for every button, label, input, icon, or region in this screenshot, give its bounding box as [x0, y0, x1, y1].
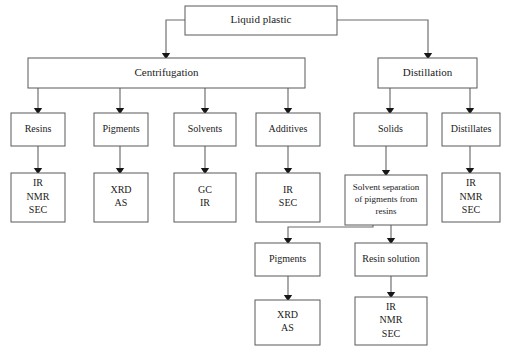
node-centrifugation[interactable]: Centrifugation [28, 58, 305, 88]
node-additives-methods[interactable]: IRSEC [256, 173, 320, 222]
liquid-plastic-to-distillation [337, 20, 432, 59]
pigments-secondary-to-methods [284, 276, 292, 301]
flowchart-canvas: Liquid plasticCentrifugationDistillation… [0, 0, 511, 350]
node-resins-methods-label: NMR [27, 191, 50, 202]
node-distillates[interactable]: Distillates [442, 113, 500, 146]
resin-solution-to-methods [387, 276, 395, 298]
node-solvents-label: Solvents [188, 123, 223, 134]
node-solvents[interactable]: Solvents [174, 113, 236, 146]
node-additives-label: Additives [269, 123, 308, 134]
node-pigments-secondary[interactable]: Pigments [255, 243, 320, 276]
node-liquid-plastic[interactable]: Liquid plastic [185, 6, 337, 35]
solvent-separation-to-resin-solution [387, 225, 395, 244]
solvents-to-methods [201, 146, 209, 174]
liquid-plastic-to-centrifugation [162, 20, 185, 59]
solvent-separation-to-pigments-line [288, 225, 373, 238]
node-distillates-methods-label: NMR [460, 191, 483, 202]
node-pigments-methods-label: XRD [110, 184, 131, 195]
node-additives[interactable]: Additives [256, 113, 320, 146]
distillation-to-distillates [466, 88, 474, 114]
solids-to-solvent-separation [382, 146, 390, 176]
node-pigments-centrifuge[interactable]: Pigments [94, 113, 148, 146]
resins-to-methods [34, 146, 42, 174]
node-additives-methods-label: SEC [279, 197, 298, 208]
node-additives-methods-label: IR [283, 184, 293, 195]
solvent-separation-to-pigments [284, 225, 373, 244]
node-resin-solution-methods-label: NMR [380, 314, 403, 325]
distillation-to-solids [386, 88, 394, 114]
additives-to-methods [284, 146, 292, 174]
node-resin-solution-methods-label: IR [386, 301, 396, 312]
node-pigments-secondary-methods-label: AS [281, 322, 294, 333]
node-liquid-plastic-label: Liquid plastic [231, 13, 292, 25]
node-distillates-label: Distillates [451, 123, 492, 134]
node-resins-label: Resins [25, 123, 52, 134]
node-resins-methods[interactable]: IRNMRSEC [11, 173, 65, 222]
node-pigments-methods[interactable]: XRDAS [94, 173, 148, 222]
node-solvent-separation-label: Solvent separation [353, 182, 420, 192]
node-distillation[interactable]: Distillation [378, 58, 477, 88]
centrifugation-to-resins [34, 88, 42, 114]
liquid-plastic-to-distillation-line [337, 20, 428, 53]
node-distillation-label: Distillation [403, 66, 453, 78]
pigments-to-methods [116, 146, 124, 174]
node-solvents-methods-label: IR [200, 197, 210, 208]
distillates-to-methods [466, 146, 474, 174]
node-solvents-methods-label: GC [198, 184, 212, 195]
node-distillates-methods-label: IR [466, 177, 476, 188]
node-solvents-methods[interactable]: GCIR [174, 173, 236, 222]
node-solids-label: Solids [378, 123, 403, 134]
node-pigments-secondary-methods[interactable]: XRDAS [255, 300, 320, 345]
node-distillates-methods[interactable]: IRNMRSEC [442, 173, 500, 222]
node-resin-solution-methods[interactable]: IRNMRSEC [355, 297, 427, 345]
node-distillates-methods-label: SEC [462, 204, 481, 215]
node-pigments-centrifuge-label: Pigments [102, 123, 139, 134]
node-resin-solution-methods-label: SEC [382, 328, 401, 339]
node-solvent-separation-label: resins [376, 206, 397, 216]
node-pigments-secondary-label: Pigments [269, 253, 306, 264]
node-resins[interactable]: Resins [11, 113, 65, 146]
node-solvent-separation[interactable]: Solvent separationof pigments fromresins [345, 175, 427, 225]
centrifugation-to-solvents [201, 88, 209, 114]
node-solids[interactable]: Solids [354, 113, 427, 146]
node-pigments-methods-label: AS [115, 197, 128, 208]
liquid-plastic-to-centrifugation-line [166, 20, 185, 53]
node-resin-solution-label: Resin solution [362, 253, 420, 264]
node-centrifugation-label: Centrifugation [134, 66, 199, 78]
centrifugation-to-additives [284, 88, 292, 114]
node-resins-methods-label: SEC [29, 204, 48, 215]
node-solvent-separation-label: of pigments from [355, 194, 418, 204]
flowchart-svg: Liquid plasticCentrifugationDistillation… [0, 0, 511, 350]
node-resin-solution[interactable]: Resin solution [355, 243, 427, 276]
node-pigments-secondary-methods-label: XRD [277, 309, 298, 320]
centrifugation-to-pigments [116, 88, 124, 114]
node-resins-methods-label: IR [33, 177, 43, 188]
